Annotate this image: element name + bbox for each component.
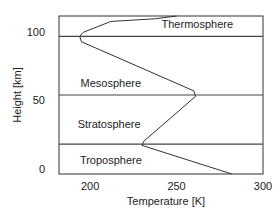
y-tick-label: 100: [27, 26, 45, 38]
layer-label-stratosphere: Stratosphere: [78, 118, 141, 130]
atmosphere-temperature-chart: TroposphereStratosphereMesosphereThermos…: [0, 0, 280, 214]
y-axis-label: Height [km]: [11, 67, 23, 123]
y-tick-label: 0: [39, 163, 45, 175]
x-axis-label: Temperature [K]: [127, 195, 205, 207]
y-tick-label: 50: [33, 94, 45, 106]
layer-label-thermosphere: Thermosphere: [162, 18, 234, 30]
x-tick-label: 300: [254, 180, 272, 192]
x-tick-label: 200: [81, 180, 99, 192]
x-tick-label: 250: [167, 180, 185, 192]
layer-label-mesosphere: Mesosphere: [81, 77, 142, 89]
layer-label-troposphere: Troposphere: [80, 154, 142, 166]
